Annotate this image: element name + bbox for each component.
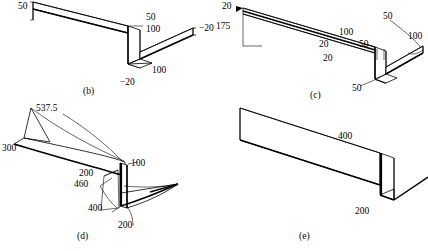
panel-c-label-dim-100-mid: 100 — [339, 28, 353, 38]
panel-c-label-dim-100-right: 100 — [408, 32, 422, 42]
panel-d-label-dim-200-lower: 200 — [118, 221, 132, 231]
panel-e-label-dim-200: 200 — [355, 207, 369, 217]
panel-d-label-dim-537p5: 537.5 — [36, 104, 57, 114]
panel-b-label-dim-100-upper: 100 — [146, 25, 160, 35]
panel-b-label-dim-50-mid: 50 — [146, 13, 156, 23]
panel-d-drawing — [0, 100, 214, 240]
panel-e-drawing — [214, 105, 428, 245]
panel-c-label-dim-50-mid: 50 — [359, 40, 369, 50]
panel-c-label-dim-20-lower: 20 — [323, 54, 333, 64]
caption-d: (d) — [77, 231, 88, 241]
caption-b: (b) — [83, 86, 94, 96]
panel-c-label-dim-50-bottom: 50 — [352, 84, 362, 94]
panel-d-label-dim-400: 400 — [88, 204, 102, 214]
panel-b-drawing — [0, 0, 214, 100]
caption-c: (c) — [310, 90, 321, 100]
figure-sheet: 50 50 100 −20 100 −20 (b) — [0, 0, 428, 251]
panel-b-label-dim-neg20-right: −20 — [199, 24, 214, 34]
panel-d-label-dim-460: 460 — [74, 180, 88, 190]
panel-c-label-dim-50-upperright: 50 — [383, 12, 393, 22]
panel-d-label-dim-200-upper: 200 — [79, 169, 93, 179]
panel-d-label-dim-300: 300 — [2, 144, 16, 154]
panel-c-label-dim-20-upper: 20 — [319, 40, 329, 50]
panel-c-drawing — [214, 0, 428, 105]
caption-e: (e) — [299, 231, 310, 241]
panel-d-label-dim-100: 100 — [131, 159, 145, 169]
panel-b-label-dim-100-lower: 100 — [152, 66, 166, 76]
panel-b-label-dim-50-left: 50 — [18, 2, 28, 12]
panel-b-label-dim-neg20-bottom: −20 — [120, 78, 135, 88]
panel-c-label-dim-175-left: 175 — [216, 22, 230, 32]
panel-e-label-dim-400: 400 — [338, 132, 352, 142]
panel-c-label-dim-20-topleft: 20 — [222, 2, 232, 12]
